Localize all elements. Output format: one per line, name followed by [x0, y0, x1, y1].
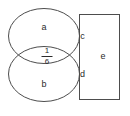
region-label-c: c — [80, 31, 85, 41]
region-label-d: d — [80, 69, 85, 79]
region-label-a: a — [41, 22, 46, 32]
region-label-e: e — [100, 51, 105, 61]
fraction-numerator: 1 — [45, 46, 50, 55]
region-label-b: b — [41, 79, 46, 89]
fraction-denominator: 6 — [45, 57, 50, 66]
venn-diagram-canvas: a b c d e 1 6 — [0, 0, 130, 116]
venn-diagram: a b c d e 1 6 — [0, 0, 130, 116]
upper-ellipse-shape — [9, 9, 80, 64]
